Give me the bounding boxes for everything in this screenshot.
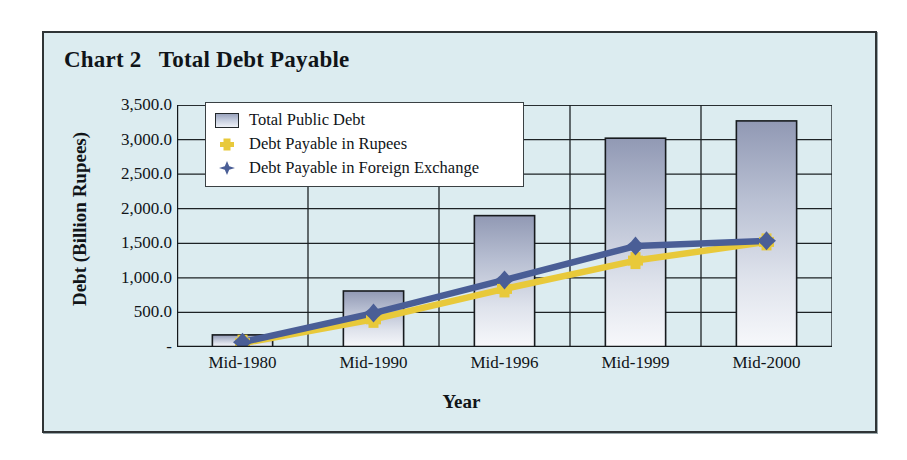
legend-item-total-public-debt: Total Public Debt	[214, 108, 515, 132]
chart-panel: Chart 2 Total Debt Payable Debt (Billion…	[42, 31, 877, 433]
x-tick-label: Mid-1999	[570, 353, 701, 381]
diamond-marker-icon	[214, 160, 240, 176]
y-tick-label: 500.0	[80, 302, 172, 322]
square-marker-icon	[214, 136, 240, 152]
y-tick-label: 1,000.0	[80, 268, 172, 288]
legend-label: Debt Payable in Foreign Exchange	[249, 158, 479, 178]
y-tick-label: -	[80, 337, 172, 357]
screenshot-root: Chart 2 Total Debt Payable Debt (Billion…	[0, 0, 907, 460]
x-tick-label: Mid-1980	[177, 353, 308, 381]
y-tick-label: 1,500.0	[80, 233, 172, 253]
x-axis-tick-labels: Mid-1980Mid-1990Mid-1996Mid-1999Mid-2000	[177, 353, 832, 381]
bar-swatch-icon	[214, 112, 240, 128]
x-axis-title: Year	[44, 391, 879, 413]
y-axis-tick-labels: -500.01,000.01,500.02,000.02,500.03,000.…	[74, 105, 172, 347]
x-tick-label: Mid-2000	[701, 353, 832, 381]
y-tick-label: 2,500.0	[80, 164, 172, 184]
legend-label: Total Public Debt	[249, 110, 365, 130]
legend-item-debt-payable-in-rupees: Debt Payable in Rupees	[214, 132, 515, 156]
x-tick-label: Mid-1990	[308, 353, 439, 381]
chart-title: Chart 2 Total Debt Payable	[64, 47, 349, 73]
chart-legend: Total Public Debt Debt Payable in Rupees	[205, 102, 524, 187]
legend-label: Debt Payable in Rupees	[249, 134, 407, 154]
y-tick-label: 3,500.0	[80, 95, 172, 115]
y-tick-label: 3,000.0	[80, 130, 172, 150]
y-tick-label: 2,000.0	[80, 199, 172, 219]
legend-item-debt-payable-in-foreign-exchange: Debt Payable in Foreign Exchange	[214, 156, 515, 180]
x-tick-label: Mid-1996	[439, 353, 570, 381]
